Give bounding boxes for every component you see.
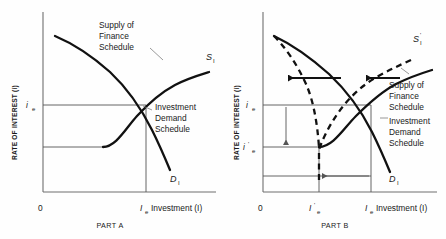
demand-annotation-line1: Investment <box>389 116 431 126</box>
supply-leader-line <box>401 68 409 74</box>
y-axis-title: RATE OF INTEREST (i) <box>11 85 19 160</box>
supply-curve-label: S <box>206 52 212 62</box>
x-tick-Ie-sub: e <box>145 209 149 215</box>
x-tick-Ie-prime-mark: ' <box>314 202 315 208</box>
origin-label: 0 <box>38 203 43 213</box>
x-tick-Ie-prime-label: I <box>309 203 312 213</box>
supply-curve-sub: I <box>213 58 215 64</box>
y-tick-ie-label: i <box>246 100 249 110</box>
supply-annotation-line1: Supply of <box>99 20 135 30</box>
supply-annotation-line3: Schedule <box>99 42 134 52</box>
y-tick-ie-prime-sub: e <box>252 148 256 154</box>
demand-curve-sub: I <box>178 180 180 186</box>
panel-a-caption: PART A <box>96 221 123 230</box>
x-axis-label: Investment (I) <box>376 203 427 213</box>
x-tick-Ie-sub: e <box>370 209 374 215</box>
demand-annotation-line3: Schedule <box>155 124 190 134</box>
y-tick-ie-sub: e <box>252 106 256 112</box>
panel-a-canvas: RATE OF INTEREST (i) i e 0 I e Investmen… <box>0 0 223 239</box>
y-tick-ie-prime-label: i <box>243 142 246 152</box>
demand-annotation-line1: Investment <box>155 102 197 112</box>
x-tick-Ie-label: I <box>365 203 368 213</box>
panel-part-a: RATE OF INTEREST (i) i e 0 I e Investmen… <box>0 0 223 239</box>
supply-annotation-line2: Finance <box>389 91 419 101</box>
panel-part-b: RATE OF INTEREST (i) i e i ' e 0 I ' e I… <box>223 0 446 239</box>
demand-curve-label: D <box>389 174 396 184</box>
economics-figure: RATE OF INTEREST (i) i e 0 I e Investmen… <box>0 0 446 239</box>
shifted-supply-curve-label: S <box>413 34 419 44</box>
x-tick-Ie-prime-sub: e <box>317 209 321 215</box>
y-tick-ie-sub: e <box>32 106 36 112</box>
y-axis-title: RATE OF INTEREST (i) <box>233 85 241 160</box>
shifted-supply-curve-prime: ' <box>420 32 421 38</box>
demand-annotation-line2: Demand <box>155 113 187 123</box>
y-tick-ie-prime-mark: ' <box>248 141 249 147</box>
demand-curve-sub: I <box>397 180 399 186</box>
x-axis-label: Investment (I) <box>151 203 202 213</box>
y-tick-ie-label: i <box>26 100 29 110</box>
panel-b-canvas: RATE OF INTEREST (i) i e i ' e 0 I ' e I… <box>223 0 446 239</box>
shifted-supply-upper-branch <box>274 36 319 147</box>
investment-demand-curve <box>55 36 170 170</box>
panel-b-caption: PART B <box>321 221 349 230</box>
supply-annotation-line2: Finance <box>99 31 129 41</box>
supply-annotation-line3: Schedule <box>389 102 424 112</box>
demand-curve-label: D <box>170 174 177 184</box>
shifted-supply-curve-sub: I <box>420 40 422 46</box>
supply-annotation-line1: Supply of <box>389 80 425 90</box>
origin-label: 0 <box>258 203 263 213</box>
x-tick-Ie-label: I <box>140 203 143 213</box>
supply-leader-line <box>150 48 163 60</box>
demand-annotation-line3: Schedule <box>389 138 424 148</box>
demand-annotation-line2: Demand <box>389 127 421 137</box>
